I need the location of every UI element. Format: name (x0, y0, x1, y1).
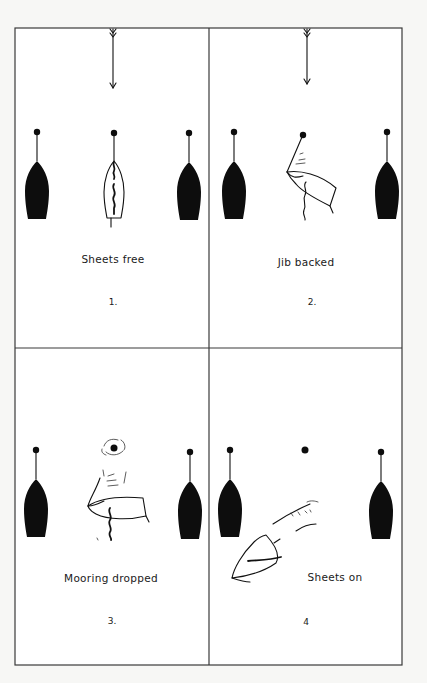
panel-caption: Sheets free (81, 253, 144, 265)
panel-number: 1. (109, 297, 118, 307)
panel-caption: Mooring dropped (64, 572, 158, 584)
mooring-buoy-icon (302, 447, 309, 454)
panel-caption: Sheets on (308, 571, 363, 583)
panel-caption: Jib backed (277, 256, 335, 268)
panel-number: 4 (303, 617, 309, 627)
panel-number: 3. (108, 616, 117, 626)
panel-number: 2. (308, 297, 317, 307)
sailing-diagram: Sheets free 1. Jib backed 2. (0, 0, 427, 683)
